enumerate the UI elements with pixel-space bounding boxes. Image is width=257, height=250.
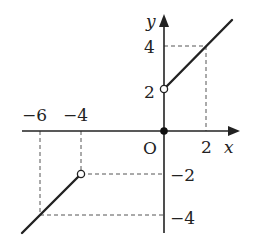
- origin-label: O: [143, 138, 157, 158]
- x-tick-neg6: −6: [22, 105, 47, 125]
- y-tick-2: 2: [144, 82, 155, 102]
- left-piece: [22, 176, 79, 233]
- open-point-right: [160, 85, 167, 92]
- x-tick-2: 2: [201, 137, 212, 157]
- function-lines: [22, 20, 232, 233]
- function-graph: y x O 4 2 −2 −4 −6 −4 2: [0, 0, 257, 250]
- y-axis-label: y: [145, 11, 156, 31]
- y-tick-neg2: −2: [170, 165, 195, 185]
- x-axis-arrow-icon: [228, 126, 240, 136]
- y-tick-4: 4: [144, 37, 155, 57]
- open-point-left: [77, 170, 84, 177]
- y-axis-arrow-icon: [159, 14, 169, 27]
- right-piece: [166, 20, 232, 87]
- closed-point-origin: [160, 127, 168, 135]
- x-tick-neg4: −4: [63, 105, 88, 125]
- x-axis-label: x: [224, 137, 234, 157]
- y-tick-neg4: −4: [170, 208, 195, 228]
